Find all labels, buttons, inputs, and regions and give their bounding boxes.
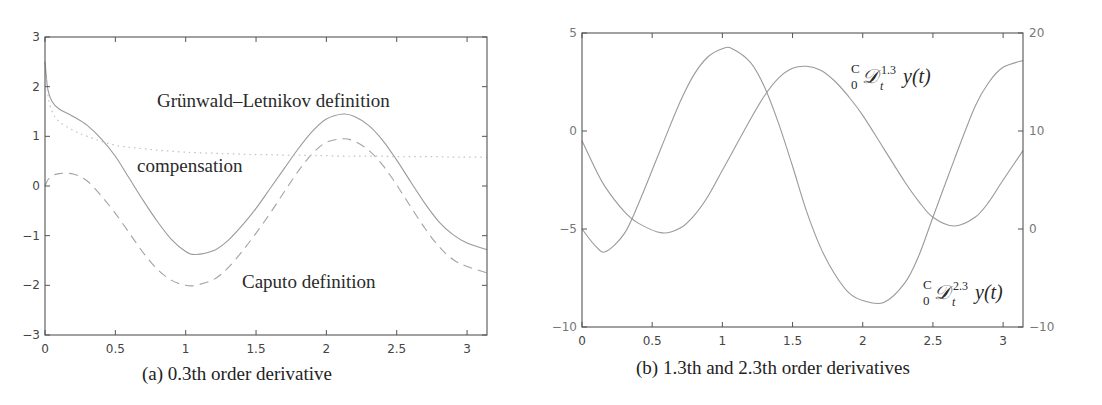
svg-text:y(t): y(t): [973, 281, 1003, 304]
svg-text:𝒟: 𝒟: [934, 281, 954, 303]
y-tick-label: −3: [22, 328, 40, 342]
y-tick-label: 0: [32, 179, 40, 193]
annotation-caputo-1-3-derivative: C0𝒟1.3ty(t): [851, 61, 931, 93]
x-tick-label: 0.5: [643, 334, 662, 348]
x-tick-label: 2: [323, 342, 331, 356]
chart-panel-a: 00.511.522.53−3−2−10123Grünwald–Letnikov…: [0, 0, 550, 405]
x-tick-label: 3: [463, 342, 471, 356]
svg-text:t: t: [880, 79, 884, 93]
svg-text:0: 0: [923, 293, 930, 308]
x-tick-label: 1: [182, 342, 190, 356]
x-tick-label: 2.5: [923, 334, 942, 348]
y-right-tick-label: 10: [1029, 124, 1044, 138]
annotation-grunwald-letnikov: Grünwald–Letnikov definition: [157, 90, 390, 111]
x-tick-label: 0: [578, 334, 586, 348]
y-tick-label: 1: [32, 129, 40, 143]
svg-text:C: C: [851, 61, 860, 76]
svg-text:𝒟: 𝒟: [862, 65, 882, 87]
y-right-tick-label: −10: [1029, 320, 1054, 334]
y-right-tick-label: 20: [1029, 26, 1044, 40]
x-tick-label: 1.5: [783, 334, 802, 348]
chart-a-plot: 00.511.522.53−3−2−10123Grünwald–Letnikov…: [0, 0, 550, 405]
chart-b-caption: (b) 1.3th and 2.3th order derivatives: [636, 357, 910, 379]
svg-text:C: C: [923, 277, 932, 292]
y-axis-ticks: −3−2−10123: [22, 30, 487, 342]
svg-text:2.3: 2.3: [953, 279, 968, 293]
svg-text:0: 0: [851, 77, 858, 92]
chart-a-caption: (a) 0.3th order derivative: [142, 363, 332, 385]
x-tick-label: 0: [41, 342, 49, 356]
y-tick-label: 3: [32, 30, 40, 44]
annotation-caputo: Caputo definition: [242, 271, 376, 292]
curve-solid-0: [582, 66, 1023, 233]
svg-text:1.3: 1.3: [881, 63, 896, 77]
annotation-caputo-2-3-derivative: C0𝒟2.3ty(t): [923, 277, 1003, 309]
y-tick-label: −10: [552, 320, 577, 334]
x-tick-label: 1: [719, 334, 727, 348]
annotation-compensation: compensation: [137, 155, 243, 176]
y-tick-label: 5: [569, 26, 577, 40]
y-tick-label: −2: [22, 278, 40, 292]
x-axis-ticks: 00.511.522.53: [41, 37, 471, 356]
x-tick-label: 2.5: [387, 342, 406, 356]
x-tick-label: 2: [859, 334, 867, 348]
svg-text:y(t): y(t): [901, 65, 931, 88]
curve-solid-1: [582, 47, 1023, 303]
x-tick-label: 1.5: [246, 342, 265, 356]
x-tick-label: 3: [999, 334, 1007, 348]
y-tick-label: −5: [559, 222, 577, 236]
x-tick-label: 0.5: [106, 342, 125, 356]
curves: [582, 47, 1023, 303]
y-right-tick-label: 0: [1029, 222, 1037, 236]
curve-dashed-1: [45, 139, 487, 286]
y-tick-label: −1: [22, 229, 40, 243]
y-tick-label: 2: [32, 80, 40, 94]
chart-panel-b: 00.511.522.53−10−505−1001020C0𝒟1.3ty(t)C…: [550, 0, 1102, 405]
svg-text:t: t: [952, 295, 956, 309]
chart-b-plot: 00.511.522.53−10−505−1001020C0𝒟1.3ty(t)C…: [550, 0, 1102, 405]
y-tick-label: 0: [569, 124, 577, 138]
